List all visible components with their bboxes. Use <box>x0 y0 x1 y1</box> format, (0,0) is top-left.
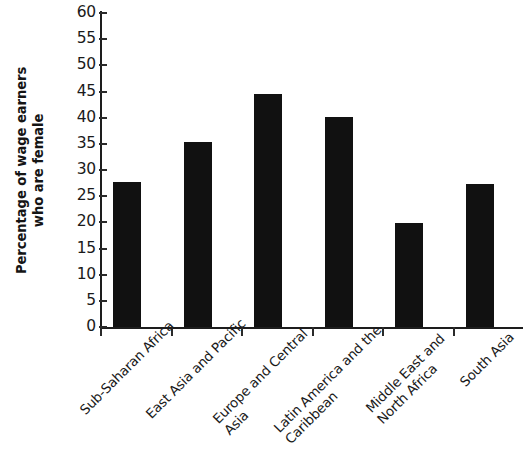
y-axis-tick <box>99 64 107 66</box>
y-axis-tick <box>99 117 107 119</box>
bar <box>254 94 282 327</box>
y-axis-tick-label: 45 <box>56 84 96 100</box>
y-axis-tick <box>99 221 107 223</box>
y-axis-tick <box>99 12 107 14</box>
y-axis-tick-label: 10 <box>56 267 96 283</box>
y-axis-tick <box>99 38 107 40</box>
y-axis-tick <box>99 195 107 197</box>
bar <box>466 184 494 327</box>
y-axis-title-line-1: Percentage of wage earners <box>14 66 31 273</box>
y-axis-tick-label: 40 <box>56 110 96 126</box>
y-axis-tick-label: 25 <box>56 188 96 204</box>
plot-area <box>100 13 523 327</box>
y-axis-tick-label: 55 <box>56 31 96 47</box>
y-axis-tick-labels: 051015202530354045505560 <box>52 13 96 327</box>
bar <box>184 142 212 327</box>
x-axis-tick-label: South Asia <box>457 330 518 391</box>
y-axis-tick-label: 5 <box>56 293 96 309</box>
y-axis-tick <box>99 300 107 302</box>
y-axis-tick <box>99 143 107 145</box>
y-axis-tick <box>99 274 107 276</box>
y-axis-tick <box>99 91 107 93</box>
y-axis-tick-label: 60 <box>56 5 96 21</box>
x-axis-tick-labels: Sub-Saharan AfricaEast Asia and PacificE… <box>0 332 523 474</box>
bar <box>113 182 141 327</box>
y-axis-tick-label: 15 <box>56 241 96 257</box>
y-axis-tick-label: 50 <box>56 58 96 74</box>
y-axis-title-line-2: who are female <box>31 66 48 273</box>
y-axis-tick-label: 30 <box>56 162 96 178</box>
y-axis-tick <box>99 248 107 250</box>
bar <box>325 117 353 327</box>
bar <box>395 223 423 327</box>
y-axis-tick <box>99 169 107 171</box>
x-axis-tick-label-line: South Asia <box>457 330 518 391</box>
y-axis-tick-label: 20 <box>56 215 96 231</box>
bar-chart: Percentage of wage earners who are femal… <box>0 0 523 474</box>
y-axis-tick-label: 35 <box>56 136 96 152</box>
